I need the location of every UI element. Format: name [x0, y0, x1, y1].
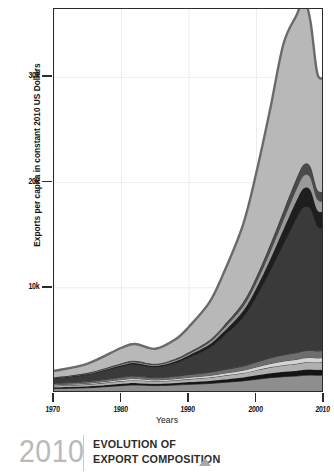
y-tick-label: 10k — [28, 281, 39, 291]
triangle-up-icon — [199, 458, 211, 466]
x-tick-mark — [52, 393, 54, 402]
x-tick-mark — [322, 393, 324, 402]
chart-figure: Exports per capita in constant 2010 US D… — [0, 0, 334, 420]
y-tick-mark — [42, 181, 52, 183]
x-tick-mark — [187, 393, 189, 402]
caption-divider — [83, 435, 84, 471]
plot-area — [53, 8, 323, 392]
x-tick-label: 2010 — [315, 404, 330, 414]
figure-caption: 2010 EVOLUTION OF EXPORT COMPOSITION — [19, 434, 319, 474]
x-tick-mark — [255, 393, 257, 402]
caption-year: 2010 — [19, 432, 84, 472]
x-tick-label: 1980 — [112, 404, 127, 414]
x-tick-label: 1970 — [45, 404, 60, 414]
y-tick-label: 20k — [28, 176, 39, 186]
x-tick-label: 1990 — [180, 404, 195, 414]
x-tick-mark — [120, 393, 122, 402]
chart-page: Exports per capita in constant 2010 US D… — [0, 0, 334, 474]
x-tick-label: 2000 — [247, 404, 262, 414]
y-tick-label: 30k — [28, 70, 39, 80]
y-tick-mark — [42, 75, 52, 77]
y-axis-title: Exports per capita in constant 2010 US D… — [32, 60, 42, 250]
y-tick-mark — [42, 286, 52, 288]
x-axis-title: Years — [0, 415, 334, 425]
stacked-area-plot — [54, 9, 323, 392]
caption-line-1: EVOLUTION OF — [93, 437, 220, 452]
